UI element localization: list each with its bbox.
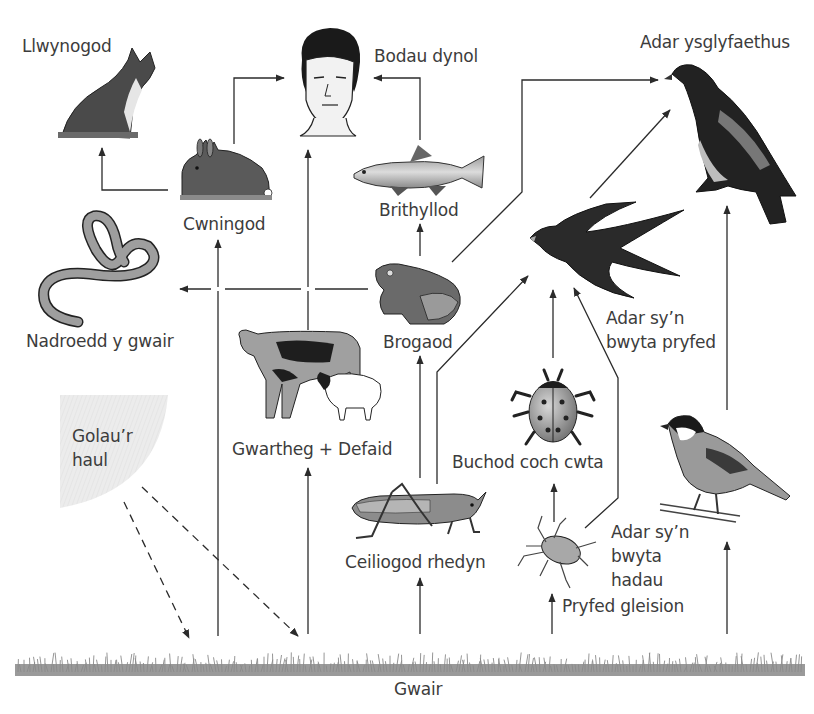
label-trout: Brithyllod — [379, 198, 459, 222]
label-frog: Brogaod — [383, 330, 453, 354]
arrow-sun-to-grass-1 — [124, 502, 189, 638]
food-web-diagram: Llwynogod Bodau dynol Adar ysglyfaethus … — [0, 0, 814, 714]
label-grass: Gwair — [394, 677, 442, 701]
arrow-sun-to-grass-2 — [142, 487, 298, 636]
arrow-rabbit-to-human — [234, 78, 284, 144]
label-rabbit: Cwningod — [183, 212, 265, 236]
label-cattle-sheep: Gwartheg + Defaid — [232, 437, 392, 461]
label-seed-bird-line1: Adar sy’n — [611, 520, 689, 544]
label-grasshopper: Ceiliogod rhedyn — [345, 550, 486, 574]
label-sun-line2: haul — [72, 448, 108, 472]
arrow-rabbit-to-fox — [102, 148, 168, 190]
energy-flow-arrows — [0, 0, 814, 714]
arrow-trout-to-human — [374, 78, 420, 140]
label-seed-bird-line3: hadau — [611, 568, 663, 592]
label-sun-line1: Golau’r — [72, 424, 132, 448]
label-human: Bodau dynol — [374, 44, 478, 68]
label-seed-bird-line2: bwyta — [611, 544, 662, 568]
label-fox: Llwynogod — [22, 34, 112, 58]
label-bird-of-prey: Adar ysglyfaethus — [640, 30, 790, 54]
label-insect-bird-line2: bwyta pryfed — [606, 330, 716, 354]
arrow-frog-to-hawk — [452, 80, 658, 262]
label-ladybird: Buchod coch cwta — [452, 450, 604, 474]
arrow-insect-bird-to-hawk — [590, 110, 670, 198]
label-aphid: Pryfed gleision — [562, 594, 684, 618]
label-snake: Nadroedd y gwair — [26, 329, 173, 353]
label-insect-bird-line1: Adar sy’n — [606, 306, 684, 330]
